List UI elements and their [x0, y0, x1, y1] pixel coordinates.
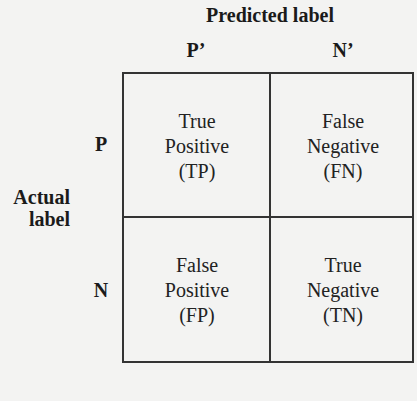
- actual-label-line-2: label: [0, 208, 70, 230]
- cell-line: (TP): [179, 159, 216, 184]
- actual-label-axis: Actual label: [0, 186, 70, 230]
- cell-line: Positive: [165, 134, 229, 159]
- cell-line: False: [176, 253, 218, 278]
- row-label-p: P: [84, 132, 118, 156]
- actual-label-line-1: Actual: [0, 186, 70, 208]
- cell-false-positive: False Positive (FP): [124, 218, 270, 362]
- cell-true-negative: True Negative (TN): [270, 218, 416, 362]
- cell-line: True: [324, 253, 361, 278]
- column-label-n-prime: N’: [270, 38, 416, 62]
- cell-line: Negative: [307, 278, 379, 303]
- cell-line: (FN): [324, 159, 363, 184]
- cell-false-negative: False Negative (FN): [270, 74, 416, 218]
- predicted-label-title: Predicted label: [170, 3, 370, 27]
- cell-line: False: [322, 109, 364, 134]
- cell-line: Negative: [307, 134, 379, 159]
- column-label-p-prime: P’: [123, 38, 269, 62]
- cell-line: True: [178, 109, 215, 134]
- cell-line: (FP): [179, 303, 215, 328]
- row-label-n: N: [84, 278, 118, 302]
- cell-true-positive: True Positive (TP): [124, 74, 270, 218]
- cell-line: Positive: [165, 278, 229, 303]
- cell-line: (TN): [323, 303, 363, 328]
